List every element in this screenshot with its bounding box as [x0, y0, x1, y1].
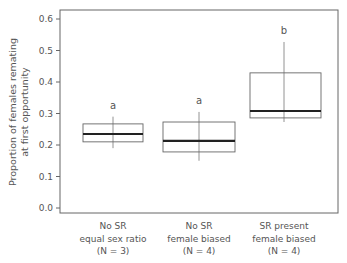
- category-label: female biased: [252, 234, 316, 244]
- y-tick-label: 0.0: [39, 203, 54, 213]
- category-label: equal sex ratio: [80, 234, 147, 244]
- category-label: (N = 4): [183, 246, 216, 256]
- category-label: No SR: [99, 221, 126, 231]
- y-tick-label: 0.1: [39, 172, 53, 182]
- category-label: (N = 3): [97, 246, 130, 256]
- y-axis-label-line2: at first opportunity: [19, 67, 30, 157]
- y-tick-label: 0.2: [39, 140, 53, 150]
- y-axis: 0.00.10.20.30.40.50.6: [39, 14, 60, 213]
- category-label: SR present: [259, 221, 309, 231]
- y-axis-label-line1: Proportion of females remating: [7, 38, 18, 186]
- box-plot-chart: 0.00.10.20.30.40.50.6 Proportion of fema…: [0, 0, 347, 263]
- box-1: a: [83, 100, 143, 148]
- significance-letter: b: [281, 25, 287, 36]
- category-label: (N = 4): [268, 246, 301, 256]
- box-2: a: [163, 95, 235, 161]
- y-tick-label: 0.4: [39, 77, 54, 87]
- significance-letter: a: [196, 95, 202, 106]
- y-tick-label: 0.6: [39, 14, 54, 24]
- category-label: No SR: [185, 221, 212, 231]
- y-tick-label: 0.3: [39, 109, 53, 119]
- significance-letter: a: [110, 100, 116, 111]
- box-series: aab: [83, 25, 321, 161]
- x-axis-categories: No SRequal sex ratio(N = 3)No SRfemale b…: [80, 221, 316, 256]
- box-3: b: [250, 25, 321, 122]
- y-tick-label: 0.5: [39, 46, 53, 56]
- category-label: female biased: [167, 234, 231, 244]
